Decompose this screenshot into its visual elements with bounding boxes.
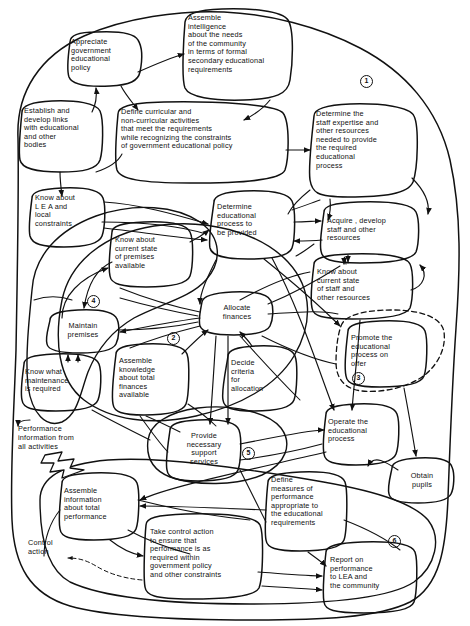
diagram-canvas: Appreciate government educational policy… (0, 0, 470, 626)
boundary-marker-3: 3 (352, 372, 365, 385)
node-outlines (19, 9, 453, 613)
boundary-marker-2: 2 (167, 332, 180, 345)
boundary-marker-5: 5 (242, 447, 255, 460)
diagram-vector-layer (0, 0, 470, 626)
label-control-action: Control action (28, 538, 88, 556)
label-performance-information-from-all-activities: Performance information from all activit… (18, 424, 128, 451)
boundary-subsystem-6 (40, 459, 436, 604)
boundary-subsystem-2 (58, 224, 307, 421)
boundary-marker-1: 1 (360, 75, 373, 88)
boundary-marker-6: 6 (388, 535, 401, 548)
boundary-marker-4: 4 (87, 295, 100, 308)
control-action-arrow (68, 558, 142, 580)
